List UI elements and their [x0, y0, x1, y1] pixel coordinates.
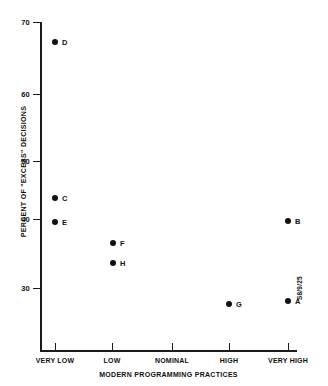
y-tick-60 [33, 94, 41, 95]
data-point-label-G: G [236, 300, 242, 309]
data-point-marker-G [226, 301, 232, 307]
y-tick-30 [33, 288, 41, 289]
data-point-marker-H [110, 260, 116, 266]
x-tick-high [229, 343, 230, 352]
x-tick-very-high [288, 343, 289, 352]
data-point-label-B: B [295, 217, 301, 226]
data-point-label-F: F [120, 239, 125, 248]
scatter-chart: 3040506070 VERY LOWLOWNOMINALHIGHVERY HI… [0, 0, 328, 386]
data-point-marker-E [52, 219, 58, 225]
data-point-label-D: D [62, 38, 68, 47]
x-tick-label-nominal: NOMINAL [155, 357, 189, 364]
y-tick-label-30: 30 [0, 284, 30, 293]
x-tick-label-low: LOW [104, 357, 121, 364]
y-tick-50 [33, 161, 41, 162]
data-point-label-C: C [62, 194, 68, 203]
x-tick-label-very-high: VERY HIGH [268, 357, 308, 364]
data-point-marker-D [52, 39, 58, 45]
figure-id-label: S8/9/25 [296, 240, 303, 300]
y-axis-line [40, 22, 42, 352]
data-point-marker-C [52, 195, 58, 201]
data-point-marker-A [285, 298, 291, 304]
x-tick-low [112, 343, 113, 352]
x-tick-label-very-low: VERY LOW [36, 357, 75, 364]
x-axis-title: MODERN PROGRAMMING PRACTICES [40, 371, 297, 378]
x-axis-line [40, 350, 297, 352]
y-tick-70 [33, 22, 41, 23]
y-axis-title: PERCENT OF "EXCESS" DECISIONS [20, 87, 27, 257]
data-point-marker-F [110, 240, 116, 246]
data-point-label-E: E [62, 218, 67, 227]
x-tick-nominal [172, 343, 173, 352]
y-tick-40 [33, 219, 41, 220]
data-point-marker-B [285, 218, 291, 224]
data-point-label-H: H [120, 259, 126, 268]
x-tick-very-low [55, 343, 56, 352]
x-tick-label-high: HIGH [220, 357, 238, 364]
y-tick-label-70: 70 [0, 18, 30, 27]
